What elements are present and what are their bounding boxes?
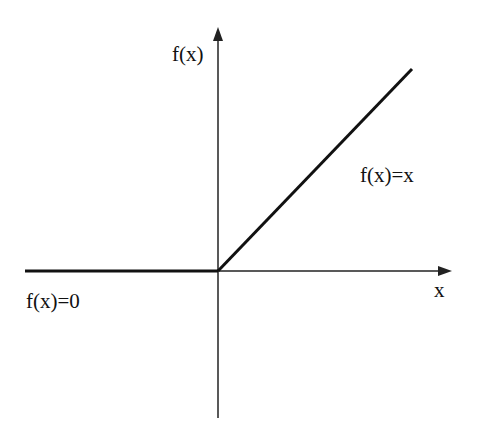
relu-diagram: f(x) x f(x)=x f(x)=0 xyxy=(0,0,477,436)
y-axis-arrow-icon xyxy=(213,27,223,41)
x-axis-label: x xyxy=(434,280,445,301)
positive-branch-label: f(x)=x xyxy=(360,165,414,186)
negative-branch-label: f(x)=0 xyxy=(26,291,80,312)
y-axis-label: f(x) xyxy=(172,44,203,65)
x-axis-arrow-icon xyxy=(438,266,452,276)
diagram-plot xyxy=(0,0,477,436)
